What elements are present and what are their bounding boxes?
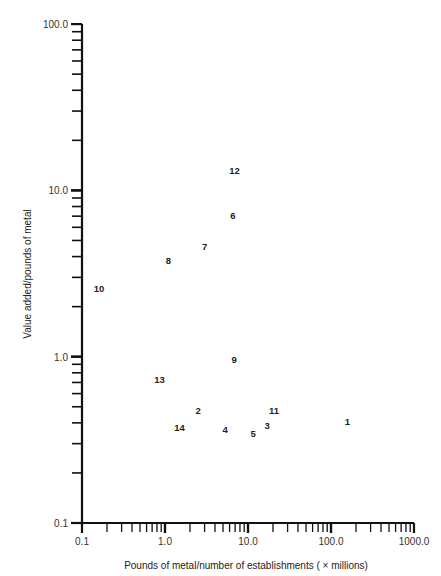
data-point-label: 1: [345, 416, 351, 427]
data-point-label: 3: [264, 420, 269, 431]
y-axis-title: Value added/pounds of metal: [22, 209, 33, 338]
x-tick-label: 0.1: [75, 536, 89, 547]
data-point-label: 6: [230, 210, 235, 221]
data-point-label: 14: [174, 422, 185, 433]
y-tick-label: 1.0: [54, 352, 68, 363]
y-tick-label: 0.1: [54, 518, 68, 529]
data-point-label: 2: [195, 405, 200, 416]
y-tick-label: 10.0: [49, 185, 69, 196]
x-tick-label: 100.0: [318, 536, 343, 547]
x-tick-label: 1.0: [158, 536, 172, 547]
axes: [81, 24, 414, 525]
x-axis-title: Pounds of metal/number of establishments…: [124, 560, 368, 571]
data-point-label: 5: [250, 428, 256, 439]
data-points: 1234567891011121314: [94, 165, 351, 439]
data-point-label: 4: [222, 424, 228, 435]
data-point-label: 9: [231, 354, 236, 365]
x-tick-label: 1000.0: [399, 536, 430, 547]
data-point-label: 12: [229, 165, 240, 176]
ticks: [71, 24, 414, 533]
y-tick-label: 100.0: [43, 19, 68, 30]
data-point-label: 8: [166, 255, 171, 266]
scatter-chart: 0.11.010.0100.00.11.010.0100.01000.0 123…: [0, 0, 441, 576]
data-point-label: 10: [94, 283, 105, 294]
data-point-label: 7: [202, 241, 207, 252]
x-tick-label: 10.0: [238, 536, 258, 547]
data-point-label: 11: [269, 405, 280, 416]
data-point-label: 13: [154, 374, 165, 385]
